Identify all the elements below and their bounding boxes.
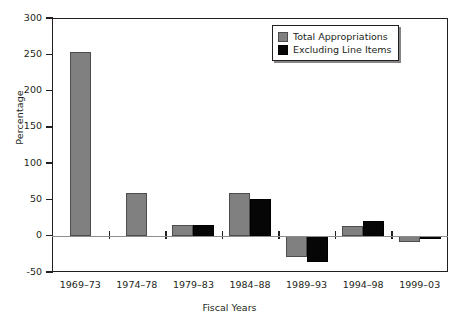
y-axis-tick [46,126,53,127]
legend: Total Appropriations Excluding Line Item… [272,25,399,61]
y-axis-label: 150 [0,121,42,131]
y-axis-tick [46,199,53,200]
legend-swatch-icon [278,45,288,55]
y-axis-label: 300 [0,13,42,23]
legend-swatch-icon [278,32,288,42]
bar [70,52,91,236]
y-axis-label: 100 [0,158,42,168]
bar [193,225,214,236]
y-axis-title: Percentage [14,63,25,173]
legend-item-excluding-line-items: Excluding Line Items [278,43,391,56]
y-axis-tick [46,17,53,18]
legend-item-total-appropriations: Total Appropriations [278,30,391,43]
y-axis-label: -50 [0,267,42,277]
bar [250,199,271,235]
bar-chart: Percentage -50050100150200250300 1969–73… [0,0,459,322]
y-axis-label: 250 [0,49,42,59]
y-axis-tick [46,54,53,55]
bar [172,225,193,236]
bar [286,236,307,258]
y-axis-tick [46,162,53,163]
bar [342,226,363,236]
x-axis-title: Fiscal Years [0,302,459,313]
legend-label: Total Appropriations [293,31,388,42]
bar [229,193,250,236]
y-axis-tick [46,90,53,91]
bar [307,236,328,262]
x-axis-label: 1999–03 [380,279,459,290]
bar [126,193,147,236]
y-axis-label: 0 [0,230,42,240]
y-axis-label: 200 [0,85,42,95]
bar [363,221,384,236]
legend-label: Excluding Line Items [293,44,391,55]
y-axis-tick [46,271,53,272]
y-axis-label: 50 [0,194,42,204]
zero-baseline [52,236,448,237]
